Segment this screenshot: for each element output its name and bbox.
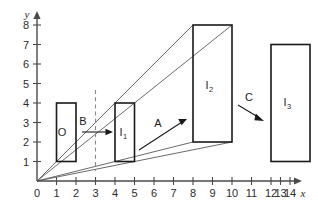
y-tick-label-7: 7 [23, 39, 29, 51]
y-axis-label: y [24, 8, 30, 20]
x-tick-label-6: 6 [151, 187, 157, 199]
label-rect-i1-subscript: 1 [123, 132, 127, 141]
y-tick-label-2: 2 [23, 136, 29, 148]
x-tick-label-2: 2 [73, 187, 79, 199]
y-tick-label-6: 6 [23, 58, 29, 70]
y-axis-arrowhead [33, 11, 40, 19]
x-axis-arrowhead [294, 177, 302, 184]
rect-image-i2 [193, 25, 232, 142]
x-tick-label-10: 10 [226, 187, 238, 199]
x-tick-label-14: 14 [284, 187, 296, 199]
y-tick-label-3: 3 [23, 117, 29, 129]
label-rect-i2-subscript: 2 [209, 85, 213, 94]
x-tick-label-7: 7 [170, 187, 176, 199]
label-rect-o: O [58, 126, 67, 138]
x-tick-label-5: 5 [131, 187, 137, 199]
x-tick-labels: 0 1 2 3 4 5 6 7 8 9 10 11 12 13 14 [34, 187, 296, 199]
y-tick-label-5: 5 [23, 78, 29, 90]
x-tick-label-1: 1 [53, 187, 59, 199]
mapping-arrow-c-head [254, 114, 264, 121]
geometric-projection-figure: 1 2 3 4 5 6 7 8 0 1 2 3 4 5 6 7 8 9 10 1… [0, 0, 318, 207]
mapping-arrow-b-head [106, 129, 114, 135]
y-tick-labels: 1 2 3 4 5 6 7 8 [23, 19, 29, 168]
mapping-arrow-c-line [238, 105, 258, 117]
x-axis-label: x [300, 187, 306, 199]
figure-canvas: 1 2 3 4 5 6 7 8 0 1 2 3 4 5 6 7 8 9 10 1… [0, 0, 318, 207]
label-mapping-a: A [154, 117, 162, 129]
y-tick-label-8: 8 [23, 19, 29, 31]
y-tick-label-4: 4 [23, 97, 29, 109]
mapping-labels: A B C [79, 91, 253, 129]
x-tick-label-8: 8 [190, 187, 196, 199]
x-tick-label-11: 11 [246, 187, 257, 199]
label-mapping-c: C [245, 91, 253, 103]
y-tick-label-1: 1 [23, 156, 29, 168]
mapping-arrows [82, 105, 264, 150]
axes [33, 11, 302, 185]
label-mapping-b: B [79, 115, 86, 127]
x-tick-label-0: 0 [34, 187, 40, 199]
x-tick-label-9: 9 [209, 187, 215, 199]
label-rect-i3-subscript: 3 [287, 102, 291, 111]
shapes [57, 25, 311, 162]
x-tick-label-4: 4 [112, 187, 118, 199]
x-tick-label-3: 3 [92, 187, 98, 199]
